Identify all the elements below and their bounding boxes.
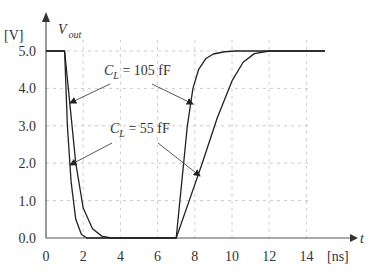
y-tick-label: 2.0 [19,156,37,171]
x-tick-label: 2 [80,249,87,264]
y-tick-label: 5.0 [19,44,37,59]
x-tick-label: 8 [191,249,198,264]
x-tick-label: 14 [299,249,313,264]
annotation-105ff: CL = 105 fF [104,63,171,81]
y-tick-label: 4.0 [19,81,37,96]
x-axis-arrow-icon [350,234,358,242]
x-tick-label: 4 [117,249,124,264]
x-tick-label: 12 [262,249,276,264]
x-unit-label: [ns] [327,249,349,264]
annotation-55ff: CL = 55 fF [110,121,170,139]
y-unit-label: [V] [4,28,23,43]
x-axis-label: t [360,231,365,246]
y-tick-label: 0.0 [19,231,37,246]
y-axis-arrow-icon [42,12,50,22]
y-tick-label: 3.0 [19,119,37,134]
voltage-transient-chart: 024681012140.01.02.03.04.05.0 [V] Vout t… [0,0,374,274]
x-tick-label: 10 [225,249,239,264]
y-tick-label: 1.0 [19,194,37,209]
axes [42,12,358,242]
x-tick-label: 0 [43,249,50,264]
data-series [46,51,325,238]
y-axis-label: Vout [58,22,82,40]
x-tick-label: 6 [154,249,161,264]
